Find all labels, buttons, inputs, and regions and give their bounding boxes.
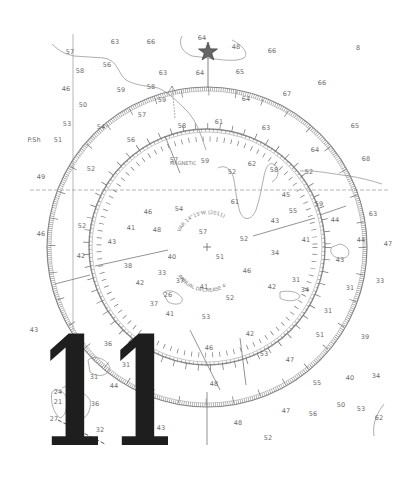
depth-sounding: 42 (77, 252, 85, 260)
center-cross-icon (203, 243, 211, 251)
depth-sounding: 52 (87, 165, 95, 173)
depth-sounding: 56 (309, 410, 317, 418)
depth-sounding: 63 (159, 69, 167, 77)
depth-sounding: 41 (127, 224, 135, 232)
depth-sounding: 57 (66, 48, 74, 56)
depth-sounding: 66 (268, 47, 276, 55)
depth-sounding: 58 (178, 122, 186, 130)
depth-sounding: 51 (316, 331, 324, 339)
depth-sounding: 43 (271, 217, 279, 225)
depth-sounding: 62 (375, 414, 383, 422)
depth-sounding: 41 (302, 236, 310, 244)
depth-sounding: 57 (199, 228, 207, 236)
depth-sounding: 31 (324, 307, 332, 315)
depth-sounding: 31 (292, 276, 300, 284)
depth-sounding: 65 (351, 122, 359, 130)
depth-sounding: 52 (264, 434, 272, 442)
depth-sounding: 52 (78, 222, 86, 230)
depth-sounding: 47 (282, 407, 290, 415)
depth-sounding: 66 (318, 79, 326, 87)
depth-sounding: 59 (117, 86, 125, 94)
depth-sounding: 64 (198, 34, 206, 42)
depth-sounding: 53 (202, 313, 210, 321)
depth-sounding: 57 (170, 156, 178, 164)
depth-sounding: 37 (176, 277, 184, 285)
depth-sounding: 53 (357, 405, 365, 413)
depth-sounding: 61 (231, 198, 239, 206)
depth-sounding: 38 (124, 262, 132, 270)
depth-sounding: 59 (201, 157, 209, 165)
depth-sounding: 54 (175, 205, 183, 213)
big-number: 11 (38, 304, 178, 480)
depth-sounding: 63 (369, 210, 377, 218)
depth-sounding: 43 (336, 256, 344, 264)
depth-sounding: 50 (337, 401, 345, 409)
depth-sounding: 63 (111, 38, 119, 46)
depth-sounding: 46 (243, 267, 251, 275)
depth-sounding: 64 (242, 95, 250, 103)
depth-sounding: 46 (205, 344, 213, 352)
depth-sounding: 59 (315, 200, 323, 208)
depth-sounding: 44 (357, 236, 365, 244)
depth-sounding: 58 (147, 83, 155, 91)
depth-sounding: 64 (311, 146, 319, 154)
nautical-chart: VAR 14°15'W (2011) ANNUAL DECREASE 4' MA… (0, 0, 411, 481)
depth-sounding: 43 (30, 326, 38, 334)
depth-sounding: 52 (305, 168, 313, 176)
depth-sounding: 56 (103, 61, 111, 69)
depth-sounding: 48 (232, 43, 240, 51)
depth-sounding: 58 (270, 166, 278, 174)
depth-sounding: 42 (246, 330, 254, 338)
depth-sounding: 8 (356, 44, 360, 52)
depth-sounding: 48 (234, 419, 242, 427)
depth-sounding: 44 (331, 216, 339, 224)
depth-sounding: 46 (37, 230, 45, 238)
depth-sounding: 67 (283, 90, 291, 98)
depth-sounding: 50 (79, 101, 87, 109)
depth-sounding: 51 (54, 136, 62, 144)
depth-sounding: 42 (268, 283, 276, 291)
depth-sounding: 54 (97, 123, 105, 131)
depth-sounding: 63 (262, 124, 270, 132)
depth-sounding: 47 (384, 240, 392, 248)
depth-sounding: 55 (313, 379, 321, 387)
depth-sounding: 39 (361, 333, 369, 341)
depth-sounding: 56 (127, 136, 135, 144)
depth-sounding: 52 (240, 235, 248, 243)
depth-sounding: 31 (346, 284, 354, 292)
depth-sounding: 46 (144, 208, 152, 216)
depth-sounding: 53 (260, 350, 268, 358)
depth-sounding: 52 (228, 168, 236, 176)
depth-sounding: 53 (63, 120, 71, 128)
depth-sounding: 68 (362, 155, 370, 163)
depth-sounding: 58 (76, 67, 84, 75)
depth-sounding: 66 (147, 38, 155, 46)
depth-sounding: 33 (158, 269, 166, 277)
depth-sounding: 33 (376, 277, 384, 285)
depth-sounding: 59 (158, 96, 166, 104)
depth-sounding: 34 (271, 249, 279, 257)
depth-sounding: 48 (210, 380, 218, 388)
depth-sounding: 41 (200, 283, 208, 291)
depth-sounding: 51 (216, 253, 224, 261)
depth-sounding: 65 (236, 68, 244, 76)
depth-sounding: 55 (289, 207, 297, 215)
depth-sounding: P.Sh (27, 136, 40, 144)
depth-sounding: 34 (372, 372, 380, 380)
depth-sounding: 47 (286, 356, 294, 364)
depth-sounding: 42 (136, 279, 144, 287)
depth-sounding: 45 (282, 191, 290, 199)
depth-sounding: 62 (248, 160, 256, 168)
depth-sounding: 26 (164, 291, 172, 299)
depth-sounding: 40 (346, 374, 354, 382)
depth-sounding: 49 (37, 173, 45, 181)
depth-sounding: 34 (301, 286, 309, 294)
depth-sounding: 48 (153, 226, 161, 234)
depth-sounding: 46 (62, 85, 70, 93)
depth-sounding: 57 (138, 111, 146, 119)
depth-sounding: 61 (215, 118, 223, 126)
depth-sounding: 64 (196, 69, 204, 77)
depth-sounding: 52 (226, 294, 234, 302)
depth-sounding: 43 (108, 238, 116, 246)
depth-sounding: 40 (168, 253, 176, 261)
